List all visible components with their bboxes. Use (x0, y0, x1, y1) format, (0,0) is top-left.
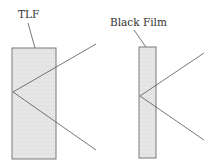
black-film-label: Black Film (110, 16, 167, 28)
film-reflection-diagram: TLF Black Film (0, 0, 214, 166)
black-film-panel: Black Film (110, 16, 204, 158)
tlf-leader-line (28, 23, 35, 48)
tlf-film-rect (12, 48, 56, 159)
tlf-panel: TLF (12, 8, 96, 159)
black-film-rect (139, 47, 156, 158)
tlf-label: TLF (18, 8, 39, 20)
black-film-leader-line (134, 30, 146, 47)
